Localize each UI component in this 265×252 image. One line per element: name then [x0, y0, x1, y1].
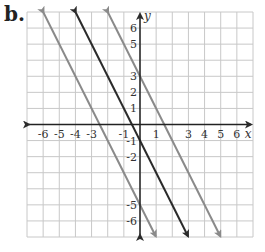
y-tick-label: 3 — [130, 70, 137, 83]
y-tick-label: -1 — [126, 135, 137, 148]
x-tick-label: 6 — [233, 128, 240, 141]
y-axis-label: y — [143, 9, 151, 23]
coordinate-plane: -6-5-4-3-11345665321-1-2-5-6xy — [0, 0, 265, 252]
x-tick-label: -3 — [86, 128, 97, 141]
y-tick-label: 6 — [130, 22, 137, 35]
y-tick-label: -6 — [126, 215, 137, 228]
x-tick-label: 3 — [185, 128, 192, 141]
x-tick-label: -6 — [38, 128, 49, 141]
x-axis-label: x — [245, 127, 252, 141]
x-tick-label: 1 — [153, 128, 160, 141]
y-tick-label: 1 — [130, 102, 137, 115]
x-tick-label: -4 — [70, 128, 81, 141]
axes — [29, 14, 251, 235]
y-tick-label: 5 — [130, 38, 137, 51]
y-tick-label: -5 — [126, 199, 137, 212]
x-tick-label: -5 — [54, 128, 65, 141]
x-tick-label: 4 — [201, 128, 208, 141]
y-tick-label: 2 — [130, 86, 137, 99]
tick-labels: -6-5-4-3-11345665321-1-2-5-6xy — [38, 9, 252, 228]
x-tick-label: 5 — [217, 128, 224, 141]
y-tick-label: -2 — [126, 151, 137, 164]
